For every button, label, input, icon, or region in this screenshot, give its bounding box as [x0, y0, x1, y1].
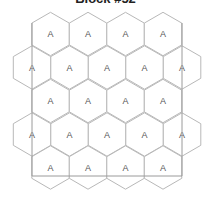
hex-label: A: [66, 130, 72, 140]
hex-label: A: [141, 63, 147, 73]
hex-label: A: [66, 63, 72, 73]
hex-grid: AAAAAAAAAAAAAAAAAAAAAA: [0, 0, 211, 197]
hex-label: A: [141, 130, 147, 140]
hex-label: A: [160, 96, 166, 106]
hex-label: A: [85, 96, 91, 106]
hex-label: A: [47, 163, 53, 173]
hex-label: A: [104, 63, 110, 73]
hex-label: A: [122, 29, 128, 39]
hex-label: A: [104, 130, 110, 140]
hex-label: A: [47, 29, 53, 39]
hex-label: A: [122, 163, 128, 173]
hex-cells: AAAAAAAAAAAAAAAAAAAAAA: [13, 12, 201, 189]
hex-label: A: [122, 96, 128, 106]
hex-label: A: [160, 163, 166, 173]
hex-label: A: [160, 29, 166, 39]
hex-label: A: [47, 96, 53, 106]
hex-label: A: [85, 29, 91, 39]
hex-label: A: [85, 163, 91, 173]
